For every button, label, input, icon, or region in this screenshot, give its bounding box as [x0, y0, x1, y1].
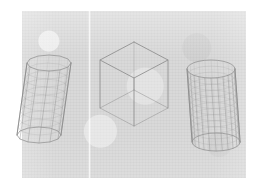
- page-fold-seam: [88, 11, 91, 178]
- figure-root: [0, 0, 261, 191]
- paper-grain-texture: [22, 11, 246, 178]
- paper-vignette: [22, 11, 246, 178]
- scanned-paper-panel: [22, 11, 246, 178]
